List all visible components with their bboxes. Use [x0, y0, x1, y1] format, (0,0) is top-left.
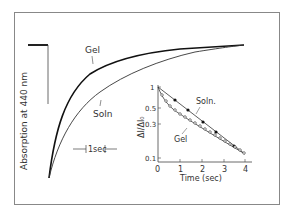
inset-xtick-2: 2 — [200, 165, 205, 174]
baseline-step-trace — [28, 45, 48, 104]
inset-gel-pointer — [182, 128, 187, 134]
inset-xtick-3: 3 — [222, 165, 227, 174]
soln-pointer — [100, 100, 101, 106]
inset-xtick-0: 0 — [155, 165, 160, 174]
inset-xtick-4: 4 — [243, 165, 248, 174]
inset-y-axis-label: ΔI/ΔI₀ — [137, 116, 146, 138]
gel-label: Gel — [85, 45, 100, 55]
inset-ytick-0.1: 0.1 — [145, 155, 156, 163]
inset-x-axis-label: Time (sec) — [179, 174, 222, 183]
gel-pointer — [92, 56, 93, 64]
inset-ytick-0.5: 0.5 — [145, 105, 156, 113]
inset-ytick-0.3: 0.3 — [145, 121, 156, 129]
scale-bar-label: 1sec — [88, 145, 107, 154]
inset-soln-label: Soln. — [196, 97, 216, 106]
main-y-axis-label: Absorption at 440 nm — [19, 72, 29, 170]
soln-label: Soln — [93, 109, 112, 119]
inset-ytick-1: 1 — [150, 84, 154, 92]
inset-chart: 1 0.5 0.3 0.1 0 1 2 3 4 Time (sec) ΔI/ΔI… — [137, 84, 252, 183]
figure: Absorption at 440 nm Gel Soln 1sec 1 0.5… — [0, 0, 292, 211]
time-scale-bar: 1sec — [73, 145, 117, 154]
inset-xtick-1: 1 — [178, 165, 183, 174]
inset-soln-pointer — [196, 107, 200, 114]
inset-gel-label: Gel — [174, 135, 187, 144]
